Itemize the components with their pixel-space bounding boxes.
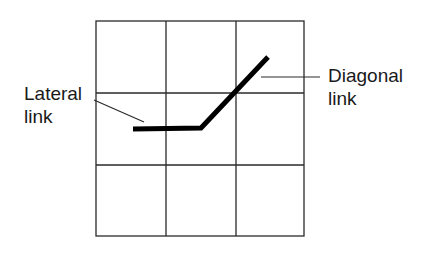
lateral-leader-line bbox=[94, 100, 144, 122]
lateral-label-line2: link bbox=[24, 106, 53, 127]
diagonal-label-line2: link bbox=[328, 88, 357, 109]
diagonal-label-line1: Diagonal bbox=[328, 65, 403, 86]
lateral-label-line1: Lateral bbox=[24, 83, 82, 104]
grid-link-diagram: Lateral link Diagonal link bbox=[0, 0, 429, 254]
